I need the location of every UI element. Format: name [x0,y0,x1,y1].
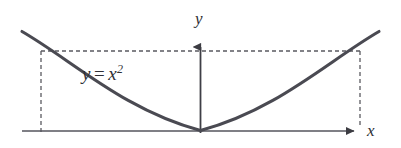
parabola-figure: y x y=x2 [0,0,401,148]
equation-exponent: 2 [117,62,124,76]
equation-base: x [108,63,117,84]
equation-operator: = [91,63,108,84]
y-axis-label: y [195,10,203,27]
x-axis-label: x [367,122,375,139]
equation-lhs: y [82,63,91,84]
curve-equation-label: y=x2 [82,62,124,85]
